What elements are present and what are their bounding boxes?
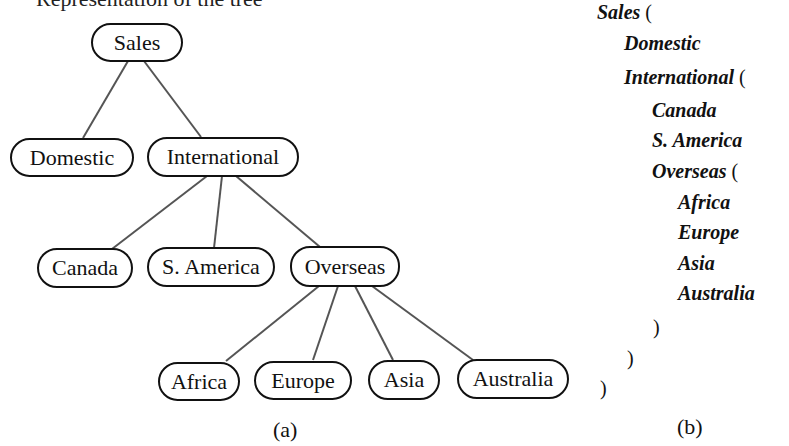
nested-line-international: International (: [624, 65, 746, 90]
nested-label: Africa: [678, 191, 730, 213]
nested-label: Domestic: [624, 32, 701, 54]
tree-node-europe: Europe: [254, 361, 352, 400]
tree-node-s-america: S. America: [147, 247, 275, 287]
tree-node-international: International: [147, 137, 299, 177]
tree-node-overseas: Overseas: [290, 246, 400, 287]
tree-node-sales: Sales: [91, 23, 183, 62]
close-paren-sales: ): [600, 376, 607, 401]
caption-a: (a): [273, 417, 297, 443]
caption-b: (b): [677, 414, 703, 440]
open-paren: (: [640, 1, 652, 23]
nested-label: Canada: [652, 99, 716, 121]
nested-label: Australia: [678, 282, 755, 304]
nested-line-australia: Australia: [678, 281, 755, 306]
nested-label: Europe: [678, 221, 739, 243]
open-paren: (: [726, 160, 738, 182]
tree-node-canada: Canada: [37, 248, 133, 288]
nested-label: Overseas: [652, 160, 726, 182]
nested-label: S. America: [652, 129, 742, 151]
nested-line-europe: Europe: [678, 220, 739, 245]
tree-node-australia: Australia: [457, 359, 569, 399]
nested-line-sales: Sales (: [597, 0, 652, 25]
close-paren-international: ): [627, 346, 634, 371]
tree-node-africa: Africa: [158, 362, 240, 401]
nested-label: International: [624, 66, 734, 88]
nested-label: Sales: [597, 1, 640, 23]
nested-line-africa: Africa: [678, 190, 730, 215]
nested-line-s-america: S. America: [652, 128, 742, 153]
nested-line-domestic: Domestic: [624, 31, 701, 56]
nested-line-canada: Canada: [652, 98, 716, 123]
nested-line-overseas: Overseas (: [652, 159, 738, 184]
nested-label: Asia: [678, 252, 715, 274]
close-paren-overseas: ): [653, 315, 660, 340]
tree-node-asia: Asia: [368, 360, 440, 400]
open-paren: (: [734, 66, 746, 88]
nested-line-asia: Asia: [678, 251, 715, 276]
tree-node-domestic: Domestic: [10, 138, 134, 177]
